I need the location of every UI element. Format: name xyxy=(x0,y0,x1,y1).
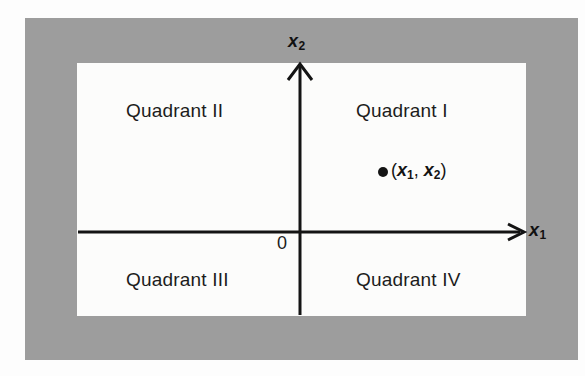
data-point-marker-icon xyxy=(378,167,388,177)
point-close-paren: ) xyxy=(440,160,446,180)
point-x2-subscript: 2 xyxy=(434,168,441,182)
y-axis-label-base: x xyxy=(288,31,298,51)
y-axis-label: x2 xyxy=(288,31,305,52)
y-axis-label-subscript: 2 xyxy=(299,39,306,53)
quadrant-1-label: Quadrant I xyxy=(356,100,448,122)
point-x1-subscript: 1 xyxy=(407,168,414,182)
quadrant-diagram-figure: Quadrant II Quadrant I Quadrant III Quad… xyxy=(0,0,585,376)
data-point-label: (x1, x2) xyxy=(391,160,446,181)
quadrant-4-label: Quadrant IV xyxy=(356,269,461,291)
quadrant-3-label: Quadrant III xyxy=(126,269,229,291)
point-x2-base: x xyxy=(424,160,434,180)
x-axis-label-base: x xyxy=(529,220,539,240)
quadrant-2-label: Quadrant II xyxy=(126,100,223,122)
x-axis-label-subscript: 1 xyxy=(540,228,547,242)
x-axis-label: x1 xyxy=(529,220,546,241)
axes-layer xyxy=(0,0,585,376)
point-comma: , xyxy=(414,160,424,180)
origin-label: 0 xyxy=(277,233,287,254)
point-x1-base: x xyxy=(397,160,407,180)
